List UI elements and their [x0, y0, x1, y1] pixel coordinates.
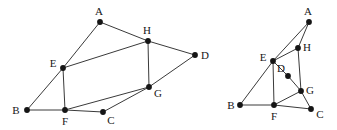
vertex-label-left-graph-B: B	[12, 105, 19, 116]
vertex-label-right-graph-F: F	[271, 111, 277, 122]
vertex-label-left-graph-G: G	[154, 88, 162, 99]
vertex-label-right-graph-H: H	[303, 42, 311, 53]
vertex-label-left-graph-H: H	[143, 25, 151, 36]
edge-left-graph-E-B	[27, 68, 63, 110]
edge-right-graph-E-B	[240, 61, 273, 105]
vertex-label-right-graph-E: E	[260, 52, 267, 63]
vertex-right-graph-B	[237, 102, 243, 108]
edge-right-graph-D-G	[288, 76, 301, 91]
edge-right-graph-F-G	[274, 91, 301, 105]
vertex-label-left-graph-E: E	[50, 58, 57, 69]
vertex-label-left-graph-F: F	[62, 116, 68, 127]
vertex-label-right-graph-D: D	[277, 63, 285, 74]
vertex-left-graph-H	[145, 38, 151, 44]
vertex-label-left-graph-D: D	[201, 50, 209, 61]
vertex-right-graph-C	[308, 106, 314, 112]
edge-right-graph-G-H	[298, 48, 301, 91]
edge-left-graph-G-D	[149, 55, 195, 87]
edge-left-graph-G-H	[148, 41, 149, 87]
vertex-left-graph-C	[100, 109, 106, 115]
vertex-right-graph-A	[306, 19, 312, 25]
vertex-left-graph-E	[60, 65, 66, 71]
vertex-left-graph-G	[146, 84, 152, 90]
edge-left-graph-F-G	[65, 87, 149, 110]
vertex-right-graph-E	[270, 58, 276, 64]
vertex-left-graph-B	[24, 107, 30, 113]
vertex-right-graph-H	[295, 45, 301, 51]
edge-right-graph-E-H	[273, 48, 298, 61]
vertex-left-graph-F	[62, 107, 68, 113]
vertex-left-graph-A	[97, 19, 103, 25]
figure-canvas: ABCDEFGHABCDEFGH	[0, 0, 337, 130]
vertex-label-left-graph-C: C	[107, 115, 114, 126]
vertex-label-right-graph-B: B	[227, 100, 234, 111]
vertex-right-graph-F	[271, 102, 277, 108]
edges-group	[27, 22, 311, 112]
edge-right-graph-E-F	[273, 61, 274, 105]
edge-left-graph-A-H	[100, 22, 148, 41]
edge-left-graph-H-D	[148, 41, 195, 55]
edge-right-graph-F-C	[274, 105, 311, 109]
vertex-right-graph-G	[298, 88, 304, 94]
edge-left-graph-E-F	[63, 68, 65, 110]
vertex-label-right-graph-C: C	[316, 109, 323, 120]
edge-left-graph-A-E	[63, 22, 100, 68]
vertex-right-graph-D	[285, 73, 291, 79]
edge-left-graph-C-G	[103, 87, 149, 112]
edge-left-graph-E-H	[63, 41, 148, 68]
vertex-label-left-graph-A: A	[95, 6, 103, 17]
vertex-left-graph-D	[192, 52, 198, 58]
vertex-label-right-graph-G: G	[306, 85, 314, 96]
vertex-label-right-graph-A: A	[304, 6, 312, 17]
edge-left-graph-F-C	[65, 110, 103, 112]
